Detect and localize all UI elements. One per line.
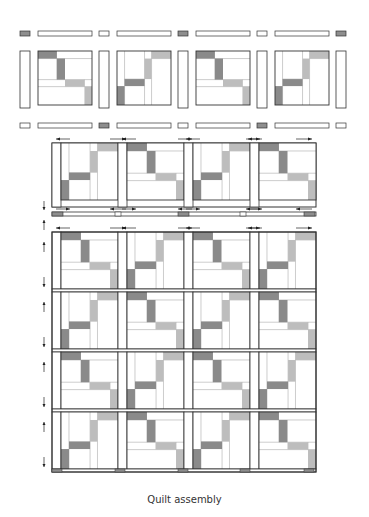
dark-patch: [61, 180, 69, 200]
cornerstone: [336, 31, 346, 36]
horizontal-sashing: [52, 349, 316, 352]
block-B: [193, 412, 250, 469]
dark-patch: [193, 352, 213, 360]
quilt-assembly-diagram: [0, 0, 369, 517]
light-patch: [110, 270, 118, 289]
light-patch: [90, 151, 97, 173]
horizontal-sashing: [38, 123, 92, 128]
light-patch: [222, 300, 229, 322]
dark-patch: [61, 352, 81, 360]
arrow-head-icon: [178, 207, 182, 210]
vertical-sashing: [52, 292, 61, 349]
vertical-sashing: [178, 51, 188, 108]
arrow-head-icon: [43, 220, 46, 223]
arrow-head-icon: [66, 207, 70, 210]
light-patch: [152, 51, 171, 59]
cornerstone: [257, 123, 267, 128]
arrow-head-icon: [43, 207, 46, 210]
dark-patch: [117, 86, 125, 105]
dark-patch: [127, 143, 147, 151]
figure-caption: Quilt assembly: [0, 494, 369, 505]
light-patch: [84, 87, 92, 105]
dark-patch: [279, 151, 288, 173]
cornerstone: [304, 212, 315, 216]
light-patch: [308, 330, 316, 349]
dark-patch: [283, 79, 303, 86]
dark-patch: [275, 86, 283, 105]
dark-patch: [69, 442, 90, 449]
arrow-head-icon: [43, 404, 46, 407]
light-patch: [90, 382, 111, 389]
light-patch: [288, 240, 295, 262]
horizontal-sashing: [275, 31, 329, 36]
dark-patch: [213, 360, 222, 382]
cornerstone: [304, 469, 314, 472]
dark-patch: [196, 51, 215, 59]
vertical-sashing: [118, 143, 127, 207]
light-patch: [110, 390, 118, 409]
vertical-sashing: [118, 292, 127, 349]
light-patch: [97, 143, 118, 151]
vertical-sashing: [184, 292, 193, 349]
vertical-sashing: [20, 51, 30, 108]
dark-patch: [259, 269, 267, 289]
dark-patch: [127, 292, 147, 300]
cornerstone: [20, 123, 30, 128]
vertical-sashing: [118, 412, 127, 469]
block-B: [117, 51, 171, 105]
dark-patch: [127, 269, 135, 289]
dark-patch: [147, 151, 156, 173]
horizontal-sashing: [52, 409, 316, 412]
vertical-sashing: [118, 232, 127, 289]
horizontal-sashing: [38, 31, 92, 36]
cornerstone: [115, 469, 125, 472]
light-patch: [310, 51, 329, 59]
dark-patch: [81, 240, 90, 262]
vertical-sashing: [52, 143, 61, 207]
cornerstone: [240, 469, 250, 472]
arrow-head-icon: [43, 344, 46, 347]
light-patch: [65, 80, 84, 87]
cornerstone: [115, 212, 121, 216]
light-patch: [176, 330, 184, 349]
dark-patch: [259, 389, 267, 409]
vertical-sashing: [250, 232, 259, 289]
light-patch: [222, 262, 243, 269]
cornerstone: [240, 212, 246, 216]
horizontal-sashing: [196, 31, 250, 36]
dark-patch: [61, 449, 69, 469]
vertical-sashing: [336, 51, 346, 108]
light-patch: [288, 442, 309, 449]
cornerstone: [178, 469, 188, 472]
light-patch: [295, 352, 316, 360]
vertical-sashing: [250, 143, 259, 207]
vertical-sashing: [52, 412, 61, 469]
block-B: [127, 352, 184, 409]
block-B: [259, 232, 316, 289]
light-patch: [229, 143, 250, 151]
light-patch: [242, 87, 250, 105]
cornerstone: [336, 123, 346, 128]
vertical-sashing: [250, 352, 259, 409]
dark-patch: [127, 389, 135, 409]
light-patch: [163, 232, 184, 240]
light-patch: [156, 240, 163, 262]
dark-patch: [201, 322, 222, 329]
arrow-head-icon: [132, 207, 136, 210]
light-patch: [229, 412, 250, 420]
dark-patch: [259, 143, 279, 151]
arrow-head-icon: [308, 137, 312, 140]
light-patch: [288, 360, 295, 382]
light-patch: [97, 412, 118, 420]
block-B: [193, 143, 250, 200]
light-patch: [229, 292, 250, 300]
dark-patch: [135, 262, 156, 269]
light-patch: [308, 450, 316, 469]
arrow-head-icon: [110, 207, 114, 210]
dark-patch: [57, 59, 65, 80]
block-B: [61, 412, 118, 469]
dark-patch: [135, 382, 156, 389]
light-patch: [97, 292, 118, 300]
arrow-head-icon: [308, 226, 312, 229]
dark-patch: [147, 420, 156, 442]
